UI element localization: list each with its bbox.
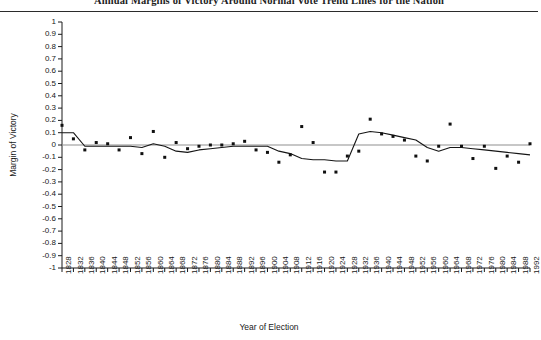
x-tick-label: 1952 [419,256,427,274]
x-tick-label: 1856 [145,256,153,274]
data-point [426,159,429,162]
x-tick-label: 1964 [453,256,461,274]
data-point [163,156,166,159]
title-divider [0,11,538,12]
y-tick-label: 0 [18,141,56,149]
data-point [369,118,372,121]
y-tick-label: -0.2 [18,166,56,174]
x-tick-label: 1900 [271,256,279,274]
x-tick-label: 1832 [77,256,85,274]
data-point [380,132,383,135]
data-point [494,167,497,170]
data-point [460,145,463,148]
data-point [357,150,360,153]
data-point [186,147,189,150]
y-tick-label: 0.9 [18,30,56,38]
x-tick-label: 1944 [396,256,404,274]
data-point [140,152,143,155]
x-tick-label: 1936 [373,256,381,274]
y-tick-label: -1 [18,264,56,272]
x-tick-label: 1848 [122,256,130,274]
data-point [300,125,303,128]
data-point [323,171,326,174]
x-tick-label: 1940 [385,256,393,274]
x-tick-label: 1976 [488,256,496,274]
data-point [95,141,98,144]
data-point [152,130,155,133]
x-tick-label: 1884 [225,256,233,274]
data-point [220,144,223,147]
data-point [392,135,395,138]
data-point [175,141,178,144]
data-point [209,144,212,147]
y-tick-label: 0.8 [18,43,56,51]
y-tick-label: 0.7 [18,55,56,63]
x-tick-label: 1928 [351,256,359,274]
y-tick-label: -0.5 [18,203,56,211]
x-tick-label: 1880 [214,256,222,274]
data-point [334,171,337,174]
x-tick-label: 1876 [202,256,210,274]
page-title: Annual Margins of Victory Around Normal … [0,0,538,6]
x-tick-label: 1868 [179,256,187,274]
data-point [277,161,280,164]
x-tick-label: 1896 [259,256,267,274]
x-tick-label: 1984 [510,256,518,274]
x-tick-label: 1916 [316,256,324,274]
x-tick-label: 1988 [522,256,530,274]
data-point [506,155,509,158]
y-tick-label: -0.7 [18,227,56,235]
x-tick-label: 1924 [339,256,347,274]
y-axis-title: Margin of Victory [8,85,18,205]
data-point [243,140,246,143]
data-point [118,148,121,151]
data-point [289,153,292,156]
y-tick-label: 0.6 [18,67,56,75]
x-tick-label: 1968 [465,256,473,274]
x-tick-label: 1852 [134,256,142,274]
x-tick-label: 1844 [111,256,119,274]
x-tick-label: 1932 [362,256,370,274]
x-tick-label: 1908 [293,256,301,274]
data-point [517,161,520,164]
y-tick-label: 0.5 [18,80,56,88]
y-tick-label: 1 [18,18,56,26]
x-tick-label: 1972 [476,256,484,274]
x-tick-label: 1840 [99,256,107,274]
x-tick-label: 1904 [282,256,290,274]
data-point [72,137,75,140]
x-tick-label: 1992 [533,256,541,274]
data-point [483,145,486,148]
data-point [449,123,452,126]
y-tick-label: 0.2 [18,116,56,124]
x-tick-label: 1860 [157,256,165,274]
data-point [346,155,349,158]
x-tick-label: 1888 [236,256,244,274]
x-tick-label: 1956 [430,256,438,274]
data-point [83,148,86,151]
x-tick-label: 1912 [305,256,313,274]
x-tick-label: 1960 [442,256,450,274]
y-tick-label: -0.8 [18,239,56,247]
data-point [312,141,315,144]
data-point [437,145,440,148]
y-tick-label: -0.3 [18,178,56,186]
data-point [106,142,109,145]
data-point [266,151,269,154]
y-tick-label: -0.6 [18,215,56,223]
y-tick-label: 0.1 [18,129,56,137]
x-tick-label: 1948 [408,256,416,274]
data-point [232,142,235,145]
x-tick-label: 1864 [168,256,176,274]
data-point [255,148,258,151]
data-point [414,155,417,158]
data-point [129,136,132,139]
x-tick-label: 1892 [248,256,256,274]
x-tick-label: 1828 [65,256,73,274]
x-tick-label: 1980 [499,256,507,274]
x-tick-label: 1836 [88,256,96,274]
data-point [529,142,532,145]
data-point [403,139,406,142]
